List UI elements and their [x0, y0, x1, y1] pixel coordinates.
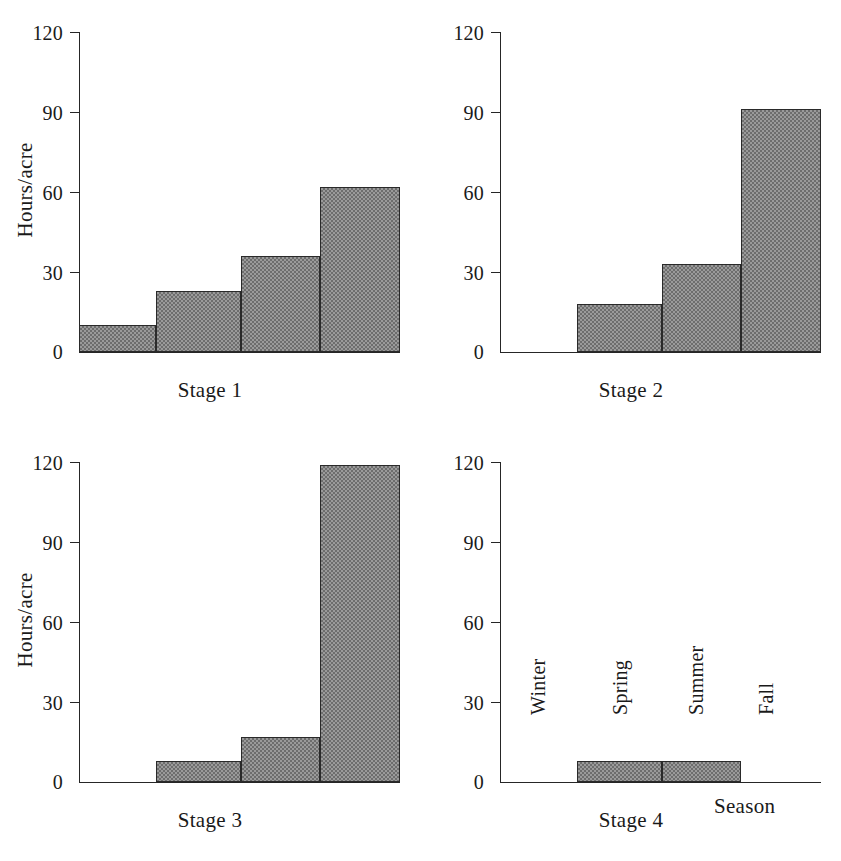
y-tick-label-0: 0: [53, 342, 63, 362]
y-tick-90: 90: [491, 542, 500, 543]
y-tick-label-0: 0: [53, 772, 63, 792]
y-tick-60: 60: [70, 622, 79, 623]
y-tick-label-90: 90: [43, 103, 63, 123]
bar-spring: [156, 291, 241, 352]
x-axis-line: [79, 782, 400, 783]
y-tick-90: 90: [70, 112, 79, 113]
category-label-spring: Spring: [609, 660, 632, 715]
category-label-summer: Summer: [685, 645, 708, 715]
bar-summer: [662, 264, 741, 352]
x-axis-line: [500, 782, 821, 783]
category-label-fall: Fall: [755, 683, 778, 715]
bar-summer: [662, 761, 741, 782]
y-axis-label: Hours/acre: [13, 142, 38, 237]
y-tick-label-60: 60: [43, 183, 63, 203]
bar-fall: [741, 109, 821, 352]
y-tick-120: 120: [491, 32, 500, 33]
y-tick-60: 60: [491, 622, 500, 623]
plot-area: 120 90 60 30 0 Winter Spring Summer Fall…: [500, 462, 821, 782]
plot-area: 120 90 60 30 0: [79, 462, 400, 782]
y-tick-label-0: 0: [474, 772, 484, 792]
y-tick-30: 30: [491, 272, 500, 273]
y-axis-line: [500, 462, 501, 782]
panel-title-stage-2: Stage 2: [421, 378, 841, 403]
y-tick-120: 120: [491, 462, 500, 463]
y-tick-120: 120: [70, 32, 79, 33]
panel-stage-4: 120 90 60 30 0 Winter Spring Summer Fall…: [421, 430, 841, 860]
y-axis-line: [79, 462, 80, 782]
y-tick-label-60: 60: [464, 613, 484, 633]
panel-stage-2: 120 90 60 30 0 Stage 2: [421, 0, 841, 430]
bar-fall: [320, 187, 400, 352]
y-tick-label-120: 120: [453, 453, 484, 473]
bar-fall: [320, 465, 400, 782]
panel-stage-1: Hours/acre 120 90 60 30 0 Stage: [0, 0, 420, 430]
y-tick-label-120: 120: [32, 23, 63, 43]
bar-spring: [577, 761, 662, 782]
y-tick-30: 30: [70, 272, 79, 273]
x-axis-line: [79, 352, 400, 353]
panel-title-stage-4: Stage 4: [421, 808, 841, 833]
y-tick-30: 30: [491, 702, 500, 703]
bar-spring: [577, 304, 662, 352]
y-tick-label-90: 90: [464, 103, 484, 123]
y-tick-label-60: 60: [464, 183, 484, 203]
panel-title-stage-1: Stage 1: [0, 378, 420, 403]
y-tick-90: 90: [70, 542, 79, 543]
panel-stage-3: Hours/acre 120 90 60 30 0 Stage: [0, 430, 420, 860]
bar-spring: [156, 761, 241, 782]
y-axis-label: Hours/acre: [13, 572, 38, 667]
category-label-winter: Winter: [527, 658, 550, 715]
bar-summer: [241, 256, 320, 352]
y-tick-label-30: 30: [43, 263, 63, 283]
plot-area: 120 90 60 30 0: [500, 32, 821, 352]
x-axis-line: [500, 352, 821, 353]
y-tick-label-60: 60: [43, 613, 63, 633]
y-tick-label-30: 30: [464, 693, 484, 713]
y-axis-line: [79, 32, 80, 352]
bar-summer: [241, 737, 320, 782]
y-tick-label-120: 120: [453, 23, 484, 43]
y-tick-label-30: 30: [43, 693, 63, 713]
y-tick-30: 30: [70, 702, 79, 703]
plot-area: 120 90 60 30 0: [79, 32, 400, 352]
y-tick-label-30: 30: [464, 263, 484, 283]
y-tick-label-90: 90: [43, 533, 63, 553]
y-tick-label-120: 120: [32, 453, 63, 473]
y-tick-label-0: 0: [474, 342, 484, 362]
y-tick-60: 60: [491, 192, 500, 193]
y-axis-line: [500, 32, 501, 352]
y-tick-120: 120: [70, 462, 79, 463]
y-tick-60: 60: [70, 192, 79, 193]
multi-panel-bar-chart-figure: Hours/acre 120 90 60 30 0 Stage: [0, 0, 841, 861]
bar-winter: [79, 325, 156, 352]
y-tick-label-90: 90: [464, 533, 484, 553]
y-tick-90: 90: [491, 112, 500, 113]
panel-title-stage-3: Stage 3: [0, 808, 420, 833]
